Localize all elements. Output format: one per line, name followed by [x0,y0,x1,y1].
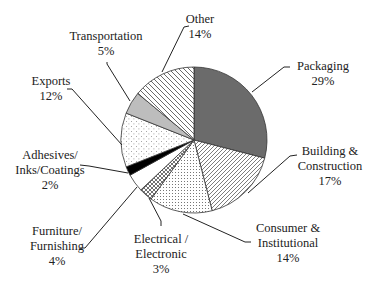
slice-label-consumer-institutional: Consumer &Institutional14% [256,221,321,265]
slice-label-electrical-electronic: Electrical /Electronic3% [134,232,189,276]
leader-line-consumer-institutional [183,214,251,242]
leader-line-adhesives-inks-coatings [80,165,128,173]
slice-label-furniture-furnishing: Furniture/Furnishing4% [30,224,85,268]
slice-label-packaging: Packaging29% [297,59,350,88]
slice-label-adhesives-inks-coatings: Adhesives/Inks/Coatings2% [15,148,85,192]
leader-line-transportation [107,62,130,101]
leader-line-packaging [252,67,290,92]
leader-line-other [162,26,189,72]
pie-slices [121,67,267,213]
leader-line-furniture-furnishing [80,187,137,248]
leader-line-exports [67,89,122,145]
slice-label-building-construction: Building &Construction17% [298,144,363,188]
pie-chart: Packaging29%Building &Construction17%Con… [0,0,375,285]
slice-label-other: Other14% [186,12,215,41]
slice-label-exports: Exports12% [32,74,71,103]
slice-label-transportation: Transportation5% [69,29,143,58]
